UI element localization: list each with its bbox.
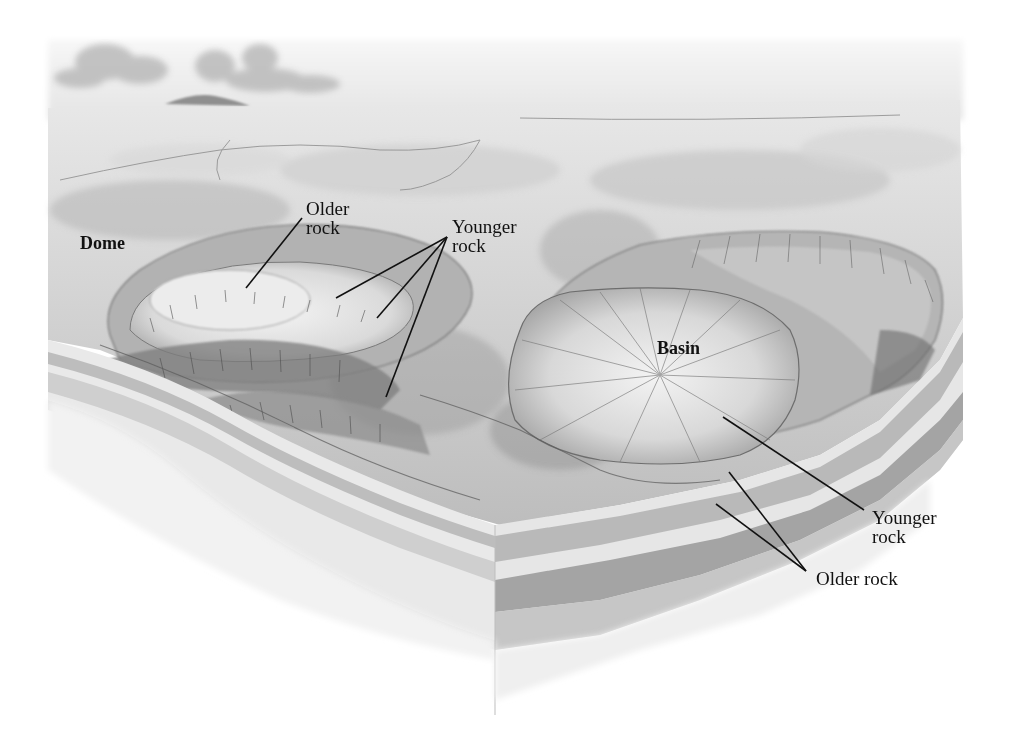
leader-line-older-rock-dome xyxy=(246,218,302,288)
label-younger-rock-basin: Younger rock xyxy=(872,508,937,546)
label-older-rock-dome: Older rock xyxy=(306,199,349,237)
leader-line-younger-rock-dome xyxy=(336,237,447,298)
label-basin: Basin xyxy=(657,339,700,358)
leader-lines xyxy=(0,0,1019,747)
leader-line-younger-rock-basin xyxy=(723,417,864,510)
label-dome: Dome xyxy=(80,234,125,253)
leader-line-younger-rock-dome xyxy=(386,237,447,397)
leader-line-younger-rock-dome xyxy=(377,237,447,318)
dome-basin-diagram: Dome Older rock Younger rock Basin Young… xyxy=(0,0,1019,747)
label-older-rock-basin: Older rock xyxy=(816,569,898,588)
label-younger-rock-dome: Younger rock xyxy=(452,217,517,255)
